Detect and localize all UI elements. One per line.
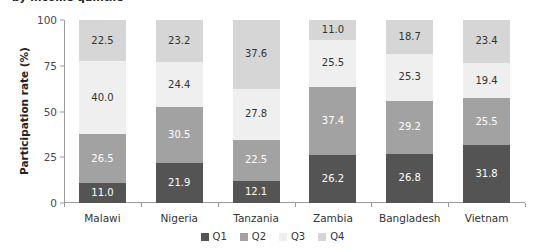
legend-item-q2[interactable]: Q2 (240, 231, 266, 242)
bar-segment-q2[interactable]: 22.5 (233, 140, 280, 181)
bar-value-label: 24.4 (168, 80, 190, 90)
bar-group[interactable]: 26.829.225.318.7Bangladesh (386, 20, 433, 203)
legend-swatch-icon (201, 233, 209, 241)
y-tick-mark (60, 157, 64, 158)
bar-segment-q3[interactable]: 40.0 (79, 61, 126, 134)
bar-value-label: 26.5 (91, 154, 113, 164)
bar-segment-q3[interactable]: 24.4 (156, 62, 203, 107)
bar-value-label: 26.2 (322, 174, 344, 184)
bar-value-label: 25.3 (399, 72, 421, 82)
bar-segment-q4[interactable]: 18.7 (386, 20, 433, 54)
legend-swatch-icon (279, 233, 287, 241)
bar-value-label: 18.7 (399, 32, 421, 42)
bar-segment-q1[interactable]: 26.8 (386, 154, 433, 203)
legend-label: Q3 (291, 231, 305, 242)
bar-segment-q2[interactable]: 29.2 (386, 101, 433, 154)
x-tick-mark (141, 203, 142, 207)
x-tick-label: Zambia (313, 212, 353, 224)
y-tick-mark (60, 111, 64, 112)
x-tick-label: Malawi (84, 212, 120, 224)
y-axis-line (64, 20, 65, 203)
legend-swatch-icon (318, 233, 326, 241)
bar-value-label: 31.8 (475, 169, 497, 179)
plot-area: 0255075100 11.026.540.022.5Malawi21.930.… (64, 20, 525, 203)
bar-value-label: 19.4 (475, 76, 497, 86)
chart-title: by income quintile (12, 0, 123, 3)
x-tick-label: Bangladesh (379, 212, 441, 224)
legend-item-q1[interactable]: Q1 (201, 231, 227, 242)
bar-value-label: 21.9 (168, 178, 190, 188)
bar-segment-q3[interactable]: 19.4 (463, 63, 510, 98)
bar-group[interactable]: 11.026.540.022.5Malawi (79, 20, 126, 203)
bar-value-label: 23.4 (475, 36, 497, 46)
bar-segment-q4[interactable]: 23.2 (156, 20, 203, 62)
legend-item-q3[interactable]: Q3 (279, 231, 305, 242)
bar-group[interactable]: 21.930.524.423.2Nigeria (156, 20, 203, 203)
bar-value-label: 25.5 (475, 117, 497, 127)
bar-value-label: 22.5 (91, 36, 113, 46)
bar-segment-q4[interactable]: 23.4 (463, 20, 510, 63)
bar-segment-q4[interactable]: 22.5 (79, 20, 126, 61)
legend-label: Q1 (213, 231, 227, 242)
x-tick-label: Vietnam (465, 212, 509, 224)
bar-segment-q3[interactable]: 27.8 (233, 89, 280, 140)
bar-segment-q4[interactable]: 37.6 (233, 20, 280, 89)
bar-stack: 31.825.519.423.4 (463, 20, 510, 203)
bar-stack: 12.122.527.837.6 (233, 20, 280, 203)
bar-group[interactable]: 31.825.519.423.4Vietnam (463, 20, 510, 203)
y-tick-mark (60, 20, 64, 21)
bar-segment-q1[interactable]: 31.8 (463, 145, 510, 203)
bar-value-label: 37.6 (245, 49, 267, 59)
legend-item-q4[interactable]: Q4 (318, 231, 344, 242)
bar-segment-q2[interactable]: 25.5 (463, 98, 510, 145)
bar-stack: 21.930.524.423.2 (156, 20, 203, 203)
bar-segment-q1[interactable]: 26.2 (309, 155, 356, 203)
bar-value-label: 30.5 (168, 130, 190, 140)
bar-value-label: 40.0 (91, 93, 113, 103)
y-tick-mark (60, 65, 64, 66)
stacked-bar-chart: by income quintile Participation rate (%… (0, 0, 545, 249)
bar-segment-q4[interactable]: 11.0 (309, 20, 356, 40)
chart-legend: Q1Q2Q3Q4 (0, 231, 545, 242)
bar-segment-q1[interactable]: 11.0 (79, 183, 126, 203)
bar-value-label: 29.2 (399, 122, 421, 132)
bar-value-label: 26.8 (399, 173, 421, 183)
bar-value-label: 27.8 (245, 109, 267, 119)
bar-stack: 26.829.225.318.7 (386, 20, 433, 203)
bar-value-label: 23.2 (168, 36, 190, 46)
bar-segment-q3[interactable]: 25.3 (386, 54, 433, 100)
x-tick-mark (295, 203, 296, 207)
bar-value-label: 37.4 (322, 116, 344, 126)
bar-value-label: 11.0 (322, 25, 344, 35)
bar-segment-q2[interactable]: 30.5 (156, 107, 203, 163)
bar-stack: 11.026.540.022.5 (79, 20, 126, 203)
x-tick-mark (218, 203, 219, 207)
bar-segment-q2[interactable]: 26.5 (79, 134, 126, 182)
bar-segment-q2[interactable]: 37.4 (309, 87, 356, 155)
bar-segment-q1[interactable]: 12.1 (233, 181, 280, 203)
bar-segment-q3[interactable]: 25.5 (309, 40, 356, 87)
bar-stack: 26.237.425.511.0 (309, 20, 356, 203)
legend-label: Q4 (330, 231, 344, 242)
bar-group[interactable]: 12.122.527.837.6Tanzania (233, 20, 280, 203)
x-tick-mark (371, 203, 372, 207)
bar-value-label: 12.1 (245, 187, 267, 197)
x-tick-mark (64, 203, 65, 207)
x-tick-mark (525, 203, 526, 207)
y-axis-label: Participation rate (%) (18, 24, 30, 199)
bar-value-label: 22.5 (245, 155, 267, 165)
x-tick-label: Nigeria (160, 212, 198, 224)
x-tick-mark (448, 203, 449, 207)
legend-swatch-icon (240, 233, 248, 241)
x-tick-label: Tanzania (233, 212, 279, 224)
bar-group[interactable]: 26.237.425.511.0Zambia (309, 20, 356, 203)
bar-segment-q1[interactable]: 21.9 (156, 163, 203, 203)
bar-value-label: 11.0 (91, 188, 113, 198)
legend-label: Q2 (252, 231, 266, 242)
bar-value-label: 25.5 (322, 58, 344, 68)
